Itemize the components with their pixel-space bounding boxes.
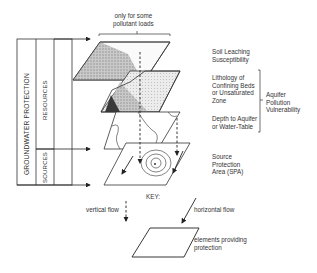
layer-label-soil: Soil Leaching Susceptibility bbox=[212, 48, 250, 63]
vulnerability-bracket bbox=[258, 70, 263, 132]
layer-label-lithology: Lithology of Confining Beds or Unsaturat… bbox=[212, 74, 255, 104]
key-elements-label: elements providing protection bbox=[194, 236, 247, 251]
vulnerability-label: Aquifer Pollution Vulnerability bbox=[266, 91, 300, 114]
layer-label-spa: Source Protection Area (SPA) bbox=[212, 153, 243, 176]
top-bracket bbox=[99, 31, 170, 36]
key-vertical-label: vertical flow bbox=[86, 206, 119, 214]
key-protection-element bbox=[132, 228, 199, 257]
top-note: only for some pollutant loads bbox=[113, 12, 154, 27]
diagram-canvas bbox=[0, 0, 317, 273]
layer-label-depth: Depth to Aquifer or Water-Table bbox=[212, 115, 257, 130]
key-title: KEY: bbox=[146, 193, 160, 201]
key-horizontal-label: horizontal flow bbox=[194, 206, 234, 214]
label-groundwater-protection: GROUNDWATER PROTECTION bbox=[23, 73, 30, 175]
label-sources: SOURCES bbox=[42, 152, 48, 183]
label-resources: RESOURCES bbox=[42, 80, 48, 120]
